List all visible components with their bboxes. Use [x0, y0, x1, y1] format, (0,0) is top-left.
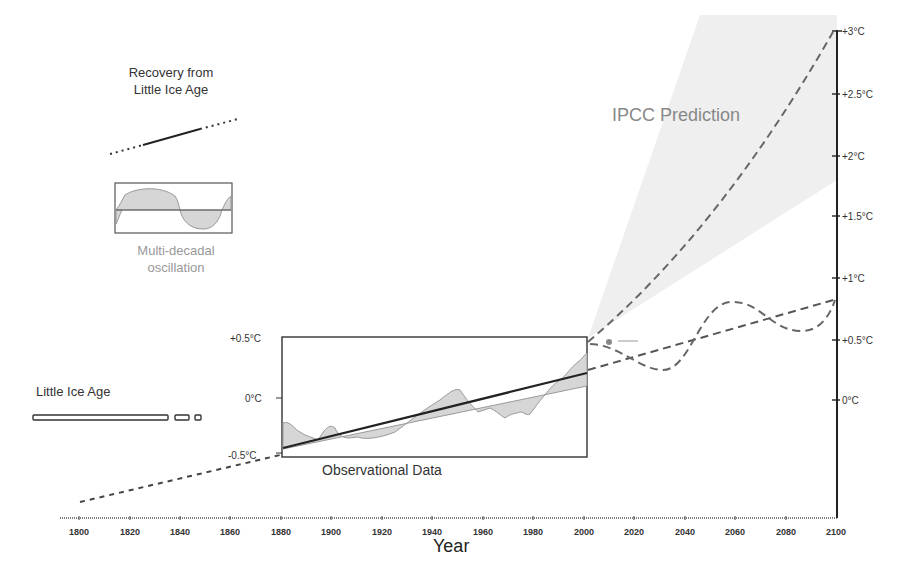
- y-tick-label: +0.5°C: [842, 335, 873, 346]
- observational-data-label: Observational Data: [322, 462, 442, 478]
- x-tick-label: 1980: [523, 527, 543, 537]
- mdo-label-line2: oscillation: [106, 259, 246, 276]
- ipcc-prediction-label: IPCC Prediction: [612, 105, 740, 126]
- inset-y-tick-label: +0.5°C: [230, 333, 261, 344]
- inset-y-tick-label: 0°C: [245, 393, 262, 404]
- inset-y-tick-label: -0.5°C: [228, 450, 256, 461]
- y-tick-label: +2°C: [842, 151, 865, 162]
- x-tick-label: 1960: [473, 527, 493, 537]
- y-tick-label: 0°C: [842, 395, 859, 406]
- mdo-label-line1: Multi-decadal: [106, 242, 246, 259]
- recovery-legend-line: [110, 119, 238, 154]
- x-tick-label: 2080: [776, 527, 796, 537]
- x-tick-label: 2060: [725, 527, 745, 537]
- x-tick-label: 1940: [422, 527, 442, 537]
- y-tick-label: +1.5°C: [842, 211, 873, 222]
- current-point-marker: [606, 339, 612, 345]
- x-tick-label: 2000: [574, 527, 594, 537]
- recovery-label-line2: Little Ice Age: [117, 81, 225, 98]
- little-ice-age-label: Little Ice Age: [36, 384, 110, 399]
- x-tick-label: 2100: [826, 527, 846, 537]
- x-tick-label: 1880: [271, 527, 291, 537]
- mdo-legend-box: [115, 183, 232, 233]
- x-tick-label: 1820: [120, 527, 140, 537]
- y-tick-label: +1°C: [842, 273, 865, 284]
- little-ice-age-bars: [33, 415, 201, 420]
- ipcc-range-band: [588, 15, 837, 338]
- recovery-trend-past: [80, 455, 280, 502]
- x-tick-label: 1840: [170, 527, 190, 537]
- y-tick-label: +3°C: [842, 26, 865, 37]
- y-tick-label: +2.5°C: [842, 89, 873, 100]
- recovery-label: Recovery from Little Ice Age: [117, 64, 225, 98]
- x-tick-label: 1860: [220, 527, 240, 537]
- x-tick-label: 2020: [624, 527, 644, 537]
- mdo-label: Multi-decadal oscillation: [106, 242, 246, 276]
- x-tick-label: 1900: [321, 527, 341, 537]
- recovery-label-line1: Recovery from: [117, 64, 225, 81]
- x-tick-label: 1800: [69, 527, 89, 537]
- x-axis-title: Year: [433, 536, 469, 557]
- x-tick-label: 2040: [675, 527, 695, 537]
- observational-inset: [276, 337, 587, 457]
- x-tick-label: 1920: [372, 527, 392, 537]
- x-axis-ticks: [79, 516, 786, 520]
